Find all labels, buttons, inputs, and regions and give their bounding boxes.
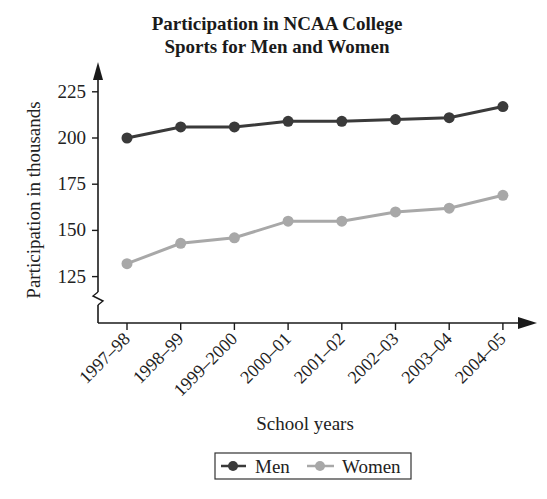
data-point-marker [497,190,508,201]
x-axis-label: School years [256,413,354,434]
series-women [122,190,509,269]
x-tick-label: 2004–05 [451,329,510,388]
data-point-marker [229,121,240,132]
legend-men-marker-icon [228,461,238,471]
x-tick-label: 2000–01 [236,329,295,388]
x-axis-arrow-icon [518,317,537,329]
chart-title-line-1: Participation in NCAA College [152,13,403,34]
line-chart: Participation in NCAA College Sports for… [0,0,547,499]
y-tick-label: 150 [58,219,87,240]
data-point-marker [175,238,186,249]
legend-women-marker-icon [315,461,325,471]
data-point-marker [283,116,294,127]
chart-title-line-2: Sports for Men and Women [164,36,390,57]
series-layer [122,101,509,269]
x-axis: 1997–981998–991999–20002000–012001–02200… [75,317,537,400]
data-point-marker [390,114,401,125]
data-point-marker [122,258,133,269]
x-tick-label: 2002–03 [344,329,403,388]
y-tick-label: 200 [58,127,87,148]
y-axis: 125150175200225 [58,62,104,323]
y-tick-label: 125 [58,266,87,287]
legend-label-women: Women [342,456,401,477]
x-tick-label: 1997–98 [75,329,134,388]
data-point-marker [444,112,455,123]
y-tick-label: 175 [58,173,87,194]
x-tick-label: 2003–04 [397,329,456,388]
data-point-marker [175,121,186,132]
data-point-marker [283,216,294,227]
data-point-marker [390,206,401,217]
data-point-marker [122,133,133,144]
y-tick-label: 225 [58,81,87,102]
y-axis-label: Participation in thousands [23,101,44,298]
data-point-marker [497,101,508,112]
data-point-marker [229,232,240,243]
legend-label-men: Men [255,456,290,477]
y-axis-arrow-icon [93,62,103,80]
data-point-marker [444,203,455,214]
data-point-marker [336,116,347,127]
axis-break-icon [93,292,103,305]
legend: Men Women [215,453,411,479]
data-point-marker [336,216,347,227]
series-men [122,101,509,143]
x-tick-label: 2001–02 [290,329,349,388]
